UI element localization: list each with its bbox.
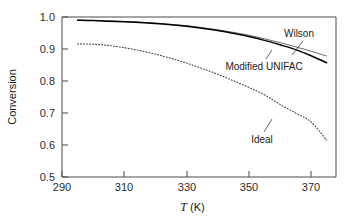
x-axis-title-symbol: T [180,200,188,214]
curve-label-wilson: Wilson [284,28,314,39]
leader-line-modified-unifac [266,50,272,59]
x-tick-label-370: 370 [302,181,320,193]
x-tick-label-310: 310 [115,181,133,193]
x-tick-label-330: 330 [178,181,196,193]
y-tick-label-0.9: 0.9 [40,43,55,55]
annotation-labels: Wilson Modified UNIFAC Ideal [225,28,314,145]
x-axis-title-units: (K) [190,201,205,213]
y-tick-label-0.7: 0.7 [40,107,55,119]
x-axis-title: T (K) [180,200,204,214]
y-axis-title: Conversion [6,69,18,125]
curve-label-ideal: Ideal [251,134,273,145]
series-line-modified-unifac [78,20,327,63]
plot-frame [62,17,336,177]
y-tick-marks [62,17,68,177]
y-tick-labels: 0.5 0.6 0.7 0.8 0.9 1.0 [40,11,55,183]
y-tick-label-0.6: 0.6 [40,139,55,151]
x-tick-marks [62,171,311,177]
x-tick-label-290: 290 [53,181,71,193]
y-tick-label-1.0: 1.0 [40,11,55,23]
curve-label-modified-unifac: Modified UNIFAC [225,61,302,72]
y-tick-label-0.5: 0.5 [40,171,55,183]
y-tick-label-0.8: 0.8 [40,75,55,87]
x-tick-labels: 290 310 330 350 370 [53,181,320,193]
chart-figure: 290 310 330 350 370 0.5 0.6 0.7 0.8 0.9 … [0,0,350,223]
annotation-leaders [264,41,303,132]
leader-line-ideal [264,119,272,132]
conversion-vs-temperature-chart: 290 310 330 350 370 0.5 0.6 0.7 0.8 0.9 … [0,0,350,223]
series-line-ideal [78,44,327,140]
x-tick-label-350: 350 [240,181,258,193]
